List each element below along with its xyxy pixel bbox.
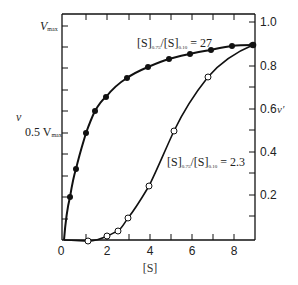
y-tick-0.2: 0.2 (260, 188, 277, 202)
y-right-tick-labels: 1.0 0.8 0.6 0.4 0.2 (260, 15, 277, 202)
x-tick-4: 4 (147, 244, 154, 258)
x-tick-2: 2 (104, 244, 111, 258)
chart: 0 2 4 6 8 1.0 0.8 0.6 0.4 0.2 [S] v v′ V… (0, 0, 298, 285)
annotation-sigmoid: [S]0.75/[S]0.10 = 2.3 (167, 155, 245, 169)
vmax-label: Vmax (40, 19, 58, 33)
x-tick-0: 0 (58, 244, 65, 258)
y-tick-0.8: 0.8 (260, 59, 277, 73)
y-tick-1.0: 1.0 (260, 15, 277, 29)
y-right-axis-label: v′ (277, 103, 285, 115)
hyperbolic-curve (64, 45, 253, 240)
x-tick-8: 8 (231, 244, 238, 258)
left-axis-ticks (62, 26, 68, 219)
top-axis-ticks (86, 14, 234, 20)
annotation-hyperbolic: [S]0.75/[S]0.10 = 27 (137, 36, 212, 50)
x-tick-labels: 0 2 4 6 8 (58, 244, 238, 258)
y-left-axis-label: v (16, 110, 22, 124)
hyperbolic-points (67, 42, 256, 200)
y-tick-0.4: 0.4 (260, 145, 277, 159)
sigmoid-curve (64, 45, 253, 241)
y-tick-0.6: 0.6 (260, 102, 277, 116)
half-vmax-label: 0.5 Vmax (25, 125, 62, 139)
right-axis-ticks (249, 22, 255, 216)
x-tick-6: 6 (189, 244, 196, 258)
x-axis-label: [S] (143, 261, 158, 275)
